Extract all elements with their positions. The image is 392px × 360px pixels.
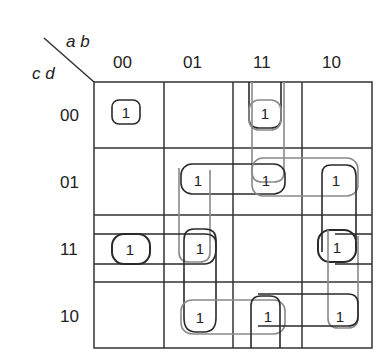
cell-one: 1 xyxy=(126,241,134,258)
cell-one: 1 xyxy=(194,172,202,189)
loop-col11-rows00-01 xyxy=(252,82,284,182)
cell-one: 1 xyxy=(333,239,341,256)
kmap-grid xyxy=(94,82,372,348)
cell-one: 1 xyxy=(122,104,130,121)
cell-one: 1 xyxy=(261,105,269,122)
cell-one: 1 xyxy=(264,308,272,325)
cell-one: 1 xyxy=(196,240,204,257)
corner-diagonal xyxy=(44,38,94,82)
cell-one: 1 xyxy=(262,172,270,189)
cell-one: 1 xyxy=(332,172,340,189)
cell-one: 1 xyxy=(336,308,344,325)
cell-one: 1 xyxy=(196,309,204,326)
